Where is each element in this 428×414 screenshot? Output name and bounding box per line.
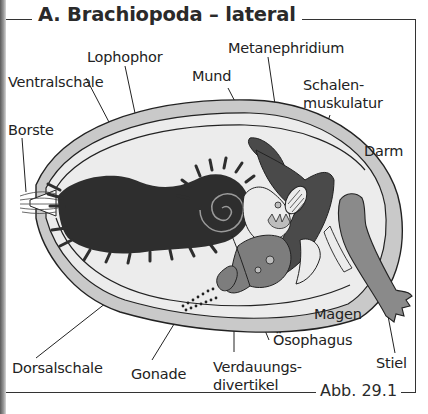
figure-title: A. Brachiopoda – lateral	[32, 2, 302, 28]
label-lophophor: Lophophor	[87, 49, 162, 66]
label-mund: Mund	[192, 68, 231, 85]
label-verdauungsdivertikel-2: divertikel	[213, 377, 278, 394]
label-darm: Darm	[364, 143, 403, 160]
label-metanephridium: Metanephridium	[228, 40, 344, 57]
label-magen: Magen	[314, 306, 362, 323]
label-oesophagus: Ösophagus	[273, 332, 352, 349]
label-dorsalschale: Dorsalschale	[12, 360, 103, 377]
label-stiel: Stiel	[376, 355, 407, 372]
label-schalenmuskulatur-2: muskulatur	[303, 95, 383, 112]
label-schalenmuskulatur-1: Schalen-	[303, 77, 364, 94]
brachiopod-diagram	[0, 0, 428, 414]
label-gonade: Gonade	[131, 366, 186, 383]
label-borste: Borste	[8, 122, 54, 139]
figure-number: Abb. 29.1	[316, 381, 401, 401]
label-verdauungsdivertikel-1: Verdauungs-	[213, 359, 302, 376]
label-ventralschale: Ventralschale	[8, 74, 103, 91]
